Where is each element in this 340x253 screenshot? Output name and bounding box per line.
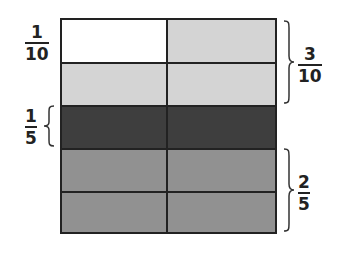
grid-row-4 [62, 150, 275, 191]
grid-row-1 [62, 20, 275, 62]
denominator: 10 [298, 68, 322, 85]
grid-cell-white [62, 20, 166, 62]
label-one-tenth: 1 10 [25, 24, 49, 63]
grid-cell-medium [168, 150, 275, 191]
grid-cell-medium [62, 193, 166, 232]
grid-cell-light [168, 64, 275, 105]
grid-cell-light [62, 64, 166, 105]
denominator: 5 [298, 196, 310, 213]
label-two-fifths: 2 5 [298, 174, 310, 213]
column-divider [166, 20, 168, 232]
denominator: 10 [25, 46, 49, 63]
label-three-tenths: 3 10 [298, 46, 322, 85]
grid-cell-medium [168, 193, 275, 232]
numerator: 1 [31, 24, 43, 41]
grid-cell-dark [168, 107, 275, 148]
fraction-grid [60, 18, 277, 234]
numerator: 3 [304, 46, 316, 63]
denominator: 5 [25, 130, 37, 147]
right-brace-icon [282, 19, 296, 105]
grid-cell-dark [62, 107, 166, 148]
label-one-fifth: 1 5 [25, 108, 37, 147]
grid-cell-medium [62, 150, 166, 191]
numerator: 2 [298, 174, 310, 191]
grid-row-3 [62, 107, 275, 148]
grid-row-2 [62, 64, 275, 105]
right-brace-icon [282, 147, 296, 233]
numerator: 1 [25, 108, 37, 125]
left-brace-icon [42, 104, 56, 148]
grid-cell-light [168, 20, 275, 62]
grid-row-5 [62, 193, 275, 232]
